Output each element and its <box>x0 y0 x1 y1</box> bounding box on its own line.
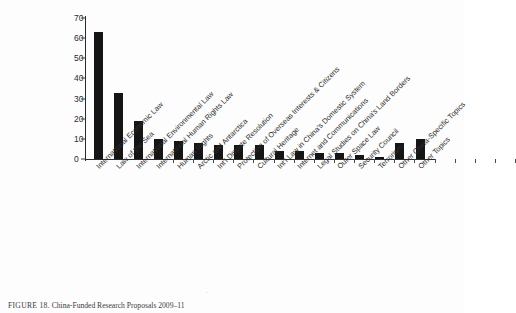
bar-slot <box>108 18 128 159</box>
bar-slot <box>148 18 168 159</box>
bar-slot <box>209 18 229 159</box>
x-axis-tick-mark <box>253 159 254 163</box>
y-axis-tick-mark <box>81 98 85 99</box>
plot-area <box>85 18 433 159</box>
x-axis-tick-mark <box>374 159 375 163</box>
bar <box>214 145 223 159</box>
bar-slot <box>390 18 410 159</box>
x-axis-tick-mark <box>475 159 476 163</box>
y-axis-tick-label: 0 <box>74 154 79 164</box>
y-axis-tick-mark <box>81 118 85 119</box>
x-axis-tick-mark <box>414 159 415 163</box>
bar-slot <box>309 18 329 159</box>
figure-caption-label: FIGURE 18. <box>8 301 50 310</box>
x-axis-ticks <box>85 159 435 163</box>
bar <box>275 151 284 159</box>
scan-artifact: · <box>202 288 210 297</box>
x-axis-tick-mark <box>314 159 315 163</box>
y-axis-tick-mark <box>81 58 85 59</box>
x-axis-tick-mark <box>354 159 355 163</box>
bar <box>114 93 123 159</box>
x-axis-tick-mark <box>213 159 214 163</box>
y-axis-tick-label: 30 <box>74 94 79 104</box>
bar-slot <box>289 18 309 159</box>
figure-caption: FIGURE 18. China-Funded Research Proposa… <box>8 301 458 310</box>
bar-series <box>85 18 433 159</box>
y-axis-tick-label: 50 <box>74 53 79 63</box>
bar <box>416 139 425 159</box>
y-axis-tick-label: 70 <box>74 13 79 23</box>
bar-slot <box>229 18 249 159</box>
x-axis-tick-mark <box>233 159 234 163</box>
x-axis-tick-mark <box>274 159 275 163</box>
bar-slot <box>88 18 108 159</box>
bar <box>154 139 163 159</box>
x-axis-tick-mark <box>294 159 295 163</box>
bar-slot <box>269 18 289 159</box>
figure-caption-text: China-Funded Research Proposals 2009–11 <box>52 301 185 310</box>
bar-slot <box>350 18 370 159</box>
x-axis-tick-mark <box>334 159 335 163</box>
y-axis-tick-label: 60 <box>74 33 79 43</box>
bar <box>395 143 404 159</box>
bar-slot <box>189 18 209 159</box>
bar <box>234 145 243 159</box>
bar-slot <box>330 18 350 159</box>
bar-slot <box>249 18 269 159</box>
x-axis-tick-mark <box>394 159 395 163</box>
bar-slot <box>410 18 430 159</box>
y-axis-tick-mark <box>81 18 85 19</box>
x-axis-tick-mark <box>495 159 496 163</box>
bar <box>255 145 264 159</box>
bar-slot <box>128 18 148 159</box>
y-axis-tick-label: 20 <box>74 114 79 124</box>
bar <box>174 141 183 159</box>
x-axis-tick-mark <box>173 159 174 163</box>
y-axis-tick-mark <box>81 78 85 79</box>
bar-slot <box>370 18 390 159</box>
y-axis-tick-mark <box>81 138 85 139</box>
bar <box>194 143 203 159</box>
x-axis-tick-mark <box>435 159 436 163</box>
bar <box>134 121 143 159</box>
bar <box>94 32 103 159</box>
bar <box>295 151 304 159</box>
bar-slot <box>169 18 189 159</box>
y-axis-tick-label: 10 <box>74 134 79 144</box>
x-axis-tick-mark <box>455 159 456 163</box>
y-axis-tick-mark <box>81 38 85 39</box>
y-axis-tick-label: 40 <box>74 73 79 83</box>
x-axis-tick-mark <box>193 159 194 163</box>
